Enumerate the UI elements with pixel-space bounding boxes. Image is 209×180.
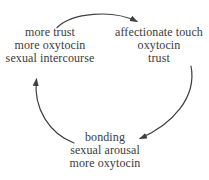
arrow-topright-to-bottom	[140, 66, 192, 139]
node-affectionate-touch: affectionate touch oxytocin trust	[109, 26, 209, 65]
node-line: sexual intercourse	[0, 52, 100, 65]
node-line: more oxytocin	[55, 157, 155, 170]
node-more-trust: more trust more oxytocin sexual intercou…	[0, 26, 100, 65]
oxytocin-trust-cycle-diagram: more trust more oxytocin sexual intercou…	[0, 0, 209, 180]
node-bonding: bonding sexual arousal more oxytocin	[55, 131, 155, 170]
node-line: trust	[109, 52, 209, 65]
